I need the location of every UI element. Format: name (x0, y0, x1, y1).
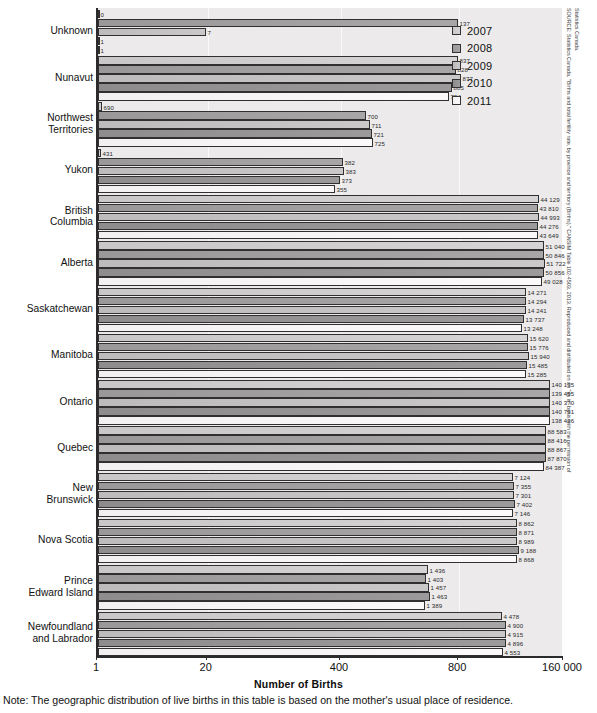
bar[interactable] (98, 592, 430, 600)
bar[interactable] (98, 639, 506, 647)
source-credit-line-1: SOURCE: Statistics Canada, "Births and t… (566, 8, 572, 472)
x-tick-label: 800 (448, 661, 466, 673)
bar[interactable] (98, 268, 544, 276)
bar[interactable] (98, 213, 539, 221)
bar-row: 139 495 (98, 389, 562, 397)
legend-item-2011[interactable]: 2011 (452, 92, 542, 110)
bar-value-label: 8 871 (517, 529, 534, 536)
bar[interactable] (98, 389, 550, 397)
bar[interactable] (98, 462, 544, 470)
bar[interactable] (98, 537, 517, 545)
bar[interactable] (98, 583, 429, 591)
bar-value-label: 15 776 (528, 344, 549, 351)
bar[interactable] (98, 176, 340, 184)
legend-item-2009[interactable]: 2009 (452, 57, 542, 75)
bar-group: 51 04050 84651 72250 85649 028 (98, 241, 562, 286)
bar[interactable] (98, 167, 344, 175)
bar[interactable] (98, 120, 370, 128)
bar[interactable] (98, 195, 539, 203)
bar-row: 14 294 (98, 297, 562, 305)
bar[interactable] (98, 407, 550, 415)
bar[interactable] (98, 74, 461, 82)
bar-value-label: 1 (99, 47, 104, 54)
bar-row: 51 722 (98, 259, 562, 267)
bar[interactable] (98, 241, 544, 249)
bar[interactable] (98, 546, 519, 554)
bar-row: 1 436 (98, 565, 562, 573)
bar[interactable] (98, 19, 458, 27)
bar[interactable] (98, 630, 506, 638)
legend-swatch-icon (452, 26, 461, 35)
bar[interactable] (98, 565, 428, 573)
bar[interactable] (98, 398, 550, 406)
bar[interactable] (98, 277, 542, 285)
bar[interactable] (98, 231, 538, 239)
legend-item-2007[interactable]: 2007 (452, 22, 542, 40)
bar[interactable] (98, 574, 426, 582)
bar[interactable] (98, 222, 538, 230)
bar-value-label: 15 620 (528, 335, 549, 342)
bar[interactable] (98, 601, 425, 609)
bar[interactable] (98, 259, 545, 267)
bar[interactable] (98, 158, 343, 166)
bar[interactable] (98, 315, 524, 323)
bar[interactable] (98, 65, 456, 73)
bar[interactable] (98, 28, 206, 36)
bar[interactable] (98, 185, 335, 193)
bar[interactable] (98, 482, 514, 490)
bar-value-label: 9 188 (519, 547, 536, 554)
bar[interactable] (98, 380, 550, 388)
bar-row: 4 896 (98, 639, 562, 647)
bar[interactable] (98, 56, 458, 64)
bar-value-label: 44 993 (539, 214, 560, 221)
bar[interactable] (98, 204, 538, 212)
bar[interactable] (98, 306, 526, 314)
bar-value-label: 8 868 (517, 556, 534, 563)
bar-value-label: 4 915 (506, 630, 523, 637)
bar[interactable] (98, 343, 528, 351)
bar[interactable] (98, 111, 366, 119)
bar[interactable] (98, 83, 452, 91)
bar[interactable] (98, 435, 546, 443)
bar[interactable] (98, 92, 449, 100)
bar[interactable] (98, 138, 373, 146)
bar[interactable] (98, 509, 513, 517)
bar[interactable] (98, 361, 527, 369)
bar[interactable] (98, 297, 526, 305)
legend-item-2010[interactable]: 2010 (452, 75, 542, 93)
bar[interactable] (98, 370, 526, 378)
bar-value-label: 1 457 (429, 584, 446, 591)
bar[interactable] (98, 416, 550, 424)
bar-value-label: 7 355 (514, 482, 531, 489)
bar-value-label: 1 389 (425, 602, 442, 609)
bar[interactable] (98, 648, 503, 656)
bar[interactable] (98, 352, 529, 360)
bar[interactable] (98, 250, 544, 258)
bar[interactable] (98, 453, 546, 461)
bar-row: 7 402 (98, 500, 562, 508)
legend-item-2008[interactable]: 2008 (452, 40, 542, 58)
bar-value-label: 1 463 (430, 593, 447, 600)
bar[interactable] (98, 555, 517, 563)
bar[interactable] (98, 528, 517, 536)
bar[interactable] (98, 500, 515, 508)
bar[interactable] (98, 519, 517, 527)
legend-swatch-icon (452, 61, 461, 70)
bar-row: 725 (98, 138, 562, 146)
bar-value-label: 15 285 (526, 371, 547, 378)
bar[interactable] (98, 612, 502, 620)
bar[interactable] (98, 129, 372, 137)
bar[interactable] (98, 621, 506, 629)
bar-value-label: 4 900 (506, 621, 523, 628)
bar[interactable] (98, 473, 513, 481)
bar-row: 15 940 (98, 352, 562, 360)
bar-row: 383 (98, 167, 562, 175)
bar[interactable] (98, 444, 546, 452)
bar[interactable] (98, 324, 522, 332)
bar[interactable] (98, 491, 514, 499)
bar-row: 88 583 (98, 426, 562, 434)
bar[interactable] (98, 426, 546, 434)
bar[interactable] (98, 288, 526, 296)
bar[interactable] (98, 334, 528, 342)
bar-row: 87 870 (98, 453, 562, 461)
